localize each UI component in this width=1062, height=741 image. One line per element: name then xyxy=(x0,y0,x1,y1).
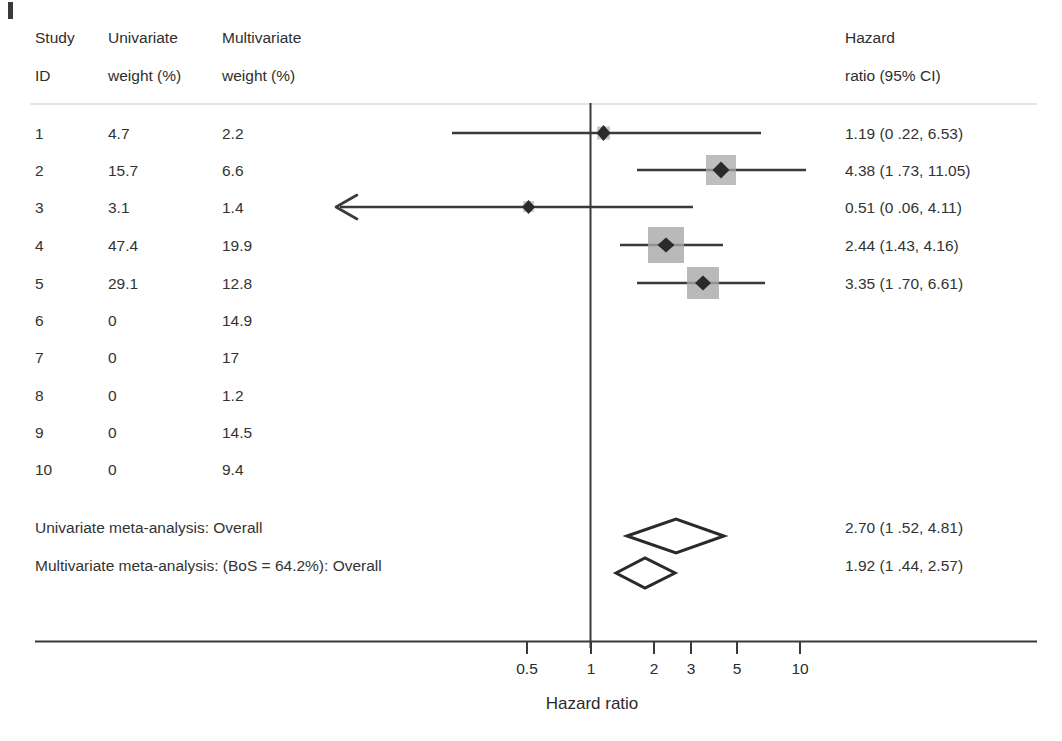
overall-multivariate-diamond xyxy=(616,558,675,588)
row-univariate-weight: 0 xyxy=(108,388,117,404)
row-hazard-ratio: 2.44 (1.43, 4.16) xyxy=(845,238,959,254)
header-hazard-line1: Hazard xyxy=(845,30,895,46)
header-multivariate-line2: weight (%) xyxy=(222,68,295,84)
row-multivariate-weight: 14.9 xyxy=(222,313,252,329)
row-id: 2 xyxy=(35,163,44,179)
row-hazard-ratio: 3.35 (1 .70, 6.61) xyxy=(845,276,963,292)
row-id: 4 xyxy=(35,238,44,254)
header-study-line1: Study xyxy=(35,30,75,46)
row-hazard-ratio: 0.51 (0 .06, 4.11) xyxy=(845,200,962,216)
header-hazard-line2: ratio (95% CI) xyxy=(845,68,941,84)
row-univariate-weight: 0 xyxy=(108,462,117,478)
row-multivariate-weight: 1.2 xyxy=(222,388,244,404)
row-univariate-weight: 4.7 xyxy=(108,126,130,142)
x-tick-label-1: 1 xyxy=(587,660,596,678)
row-id: 5 xyxy=(35,276,44,292)
header-univariate-line2: weight (%) xyxy=(108,68,181,84)
row-multivariate-weight: 19.9 xyxy=(222,238,252,254)
x-tick-label-5: 5 xyxy=(733,660,742,678)
forest-plot-graphic xyxy=(0,0,1062,741)
row-id: 1 xyxy=(35,126,44,142)
row-id: 3 xyxy=(35,200,44,216)
row-univariate-weight: 0 xyxy=(108,313,117,329)
x-tick-label-2: 2 xyxy=(650,660,659,678)
row-multivariate-weight: 1.4 xyxy=(222,200,244,216)
study-row-1-marker xyxy=(452,125,761,141)
x-axis-ticks xyxy=(527,641,800,654)
study-row-4-marker xyxy=(620,227,723,263)
overall-univariate-diamond xyxy=(627,519,724,553)
study-row-3-marker xyxy=(336,195,693,219)
overall-univariate-hazard-ratio: 2.70 (1 .52, 4.81) xyxy=(845,520,963,536)
overall-univariate-label: Univariate meta-analysis: Overall xyxy=(35,520,262,536)
row-univariate-weight: 29.1 xyxy=(108,276,138,292)
header-multivariate-line1: Multivariate xyxy=(222,30,301,46)
row-univariate-weight: 15.7 xyxy=(108,163,138,179)
row-id: 6 xyxy=(35,313,44,329)
header-univariate-line1: Univariate xyxy=(108,30,178,46)
row-univariate-weight: 3.1 xyxy=(108,200,130,216)
study-row-5-marker xyxy=(637,267,765,299)
row-multivariate-weight: 12.8 xyxy=(222,276,252,292)
overall-multivariate-label: Multivariate meta-analysis: (BoS = 64.2%… xyxy=(35,558,382,574)
row-multivariate-weight: 14.5 xyxy=(222,425,252,441)
row-multivariate-weight: 6.6 xyxy=(222,163,244,179)
x-tick-label-10: 10 xyxy=(791,660,808,678)
row-univariate-weight: 0 xyxy=(108,425,117,441)
x-tick-label-3: 3 xyxy=(687,660,696,678)
row-id: 10 xyxy=(35,462,52,478)
row-id: 7 xyxy=(35,350,44,366)
row-univariate-weight: 47.4 xyxy=(108,238,138,254)
header-study-line2: ID xyxy=(35,68,51,84)
overall-multivariate-hazard-ratio: 1.92 (1 .44, 2.57) xyxy=(845,558,963,574)
row-id: 8 xyxy=(35,388,44,404)
row-id: 9 xyxy=(35,425,44,441)
row-multivariate-weight: 2.2 xyxy=(222,126,244,142)
x-axis-title: Hazard ratio xyxy=(546,694,639,714)
row-multivariate-weight: 17 xyxy=(222,350,239,366)
row-multivariate-weight: 9.4 xyxy=(222,462,244,478)
row-hazard-ratio: 1.19 (0 .22, 6.53) xyxy=(845,126,963,142)
row-hazard-ratio: 4.38 (1 .73, 11.05) xyxy=(845,163,971,179)
x-tick-label-0.5: 0.5 xyxy=(516,660,538,678)
row-univariate-weight: 0 xyxy=(108,350,117,366)
study-row-2-marker xyxy=(637,155,806,185)
